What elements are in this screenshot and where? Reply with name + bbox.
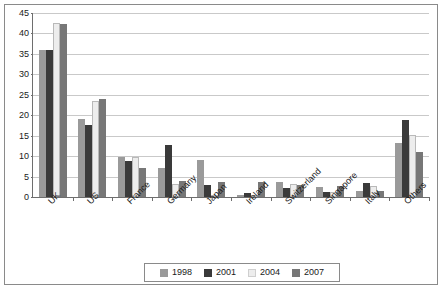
legend-swatch-icon [204, 269, 212, 277]
x-axis: UKUSFranceGermanyJapanIrelandSwitzerland… [32, 199, 428, 259]
chart-frame: 051015202530354045 UKUSFranceGermanyJapa… [4, 4, 438, 285]
legend-swatch-icon [248, 269, 256, 277]
legend-item-1998: 1998 [160, 268, 192, 277]
bar-group [395, 13, 423, 197]
legend-swatch-icon [292, 269, 300, 277]
chart-plot-wrapper: 051015202530354045 UKUSFranceGermanyJapa… [5, 5, 439, 286]
bar-italy-1998 [356, 191, 363, 197]
bar-japan-1998 [197, 160, 204, 197]
bar-uk-2007 [60, 24, 67, 197]
bar-ireland-1998 [237, 195, 244, 197]
y-tick-label: 20 [7, 111, 29, 120]
legend-label: 2007 [304, 268, 324, 277]
y-tick-label: 40 [7, 29, 29, 38]
y-tick-label: 25 [7, 90, 29, 99]
chart-legend: 1998200120042007 [144, 263, 340, 282]
bar-group [39, 13, 67, 197]
y-tick-label: 0 [7, 193, 29, 202]
legend-label: 2004 [260, 268, 280, 277]
x-tick-mark [429, 197, 430, 201]
y-axis: 051015202530354045 [7, 13, 29, 197]
bar-us-2004 [92, 101, 99, 197]
bar-group [158, 13, 186, 197]
legend-label: 2001 [216, 268, 236, 277]
bar-germany-1998 [158, 168, 165, 197]
y-tick-label: 30 [7, 70, 29, 79]
bar-others-2001 [402, 120, 409, 197]
bar-others-1998 [395, 143, 402, 197]
legend-swatch-icon [160, 269, 168, 277]
bar-uk-1998 [39, 50, 46, 197]
bar-group [237, 13, 265, 197]
y-tick-label: 5 [7, 172, 29, 181]
bar-france-1998 [118, 157, 125, 197]
bar-singapore-1998 [316, 187, 323, 197]
bar-group [78, 13, 106, 197]
bar-us-1998 [78, 119, 85, 197]
legend-item-2004: 2004 [248, 268, 280, 277]
y-tick-label: 15 [7, 131, 29, 140]
legend-item-2007: 2007 [292, 268, 324, 277]
bar-group [356, 13, 384, 197]
y-tick-label: 45 [7, 9, 29, 18]
plot-area [32, 13, 429, 198]
bar-uk-2004 [53, 23, 60, 197]
bar-us-2001 [85, 125, 92, 197]
bar-group [197, 13, 225, 197]
y-tick-label: 10 [7, 152, 29, 161]
bar-group [276, 13, 304, 197]
bar-germany-2001 [165, 145, 172, 197]
y-tick-label: 35 [7, 49, 29, 58]
bar-switzerland-1998 [276, 182, 283, 197]
bar-uk-2001 [46, 50, 53, 197]
bar-us-2007 [99, 99, 106, 197]
legend-item-2001: 2001 [204, 268, 236, 277]
legend-label: 1998 [172, 268, 192, 277]
bar-group [118, 13, 146, 197]
